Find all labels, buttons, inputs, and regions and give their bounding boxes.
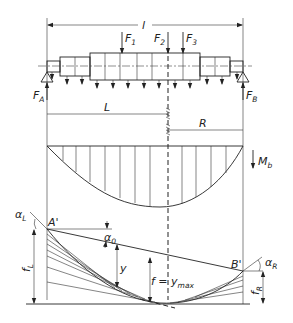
- support-b: FB: [237, 72, 257, 104]
- point-b-prime: B': [231, 258, 242, 271]
- force-f3: F3: [183, 32, 197, 53]
- segment-l: L: [47, 101, 170, 119]
- svg-text:F3: F3: [186, 32, 197, 47]
- force-f2: F2: [154, 32, 168, 53]
- svg-text:R: R: [199, 117, 207, 130]
- svg-text:F2: F2: [154, 32, 165, 47]
- svg-text:L: L: [104, 101, 110, 114]
- beam-deflection-diagram: l F1 F2: [0, 0, 293, 323]
- label-l: l: [142, 19, 145, 32]
- support-a: FA: [33, 72, 53, 104]
- alpha-r-label: αR: [265, 256, 277, 271]
- svg-text:Mb: Mb: [258, 155, 273, 170]
- stepped-shaft: [38, 53, 252, 80]
- f-ymax-label: f = ymax: [151, 275, 194, 290]
- bending-moment-diagram: Mb: [47, 146, 273, 207]
- svg-text:F1: F1: [125, 32, 136, 47]
- f-l-label: fL: [20, 264, 35, 272]
- alpha-0-label: α0: [104, 231, 116, 246]
- point-a-prime: A': [47, 216, 59, 229]
- svg-text:FB: FB: [246, 89, 257, 104]
- svg-text:FA: FA: [33, 89, 44, 104]
- alpha-l-label: αL: [15, 208, 26, 223]
- deflection-diagram: A' B' αL α0 αR y f = ymax fL fR: [15, 208, 277, 308]
- y-label: y: [119, 262, 127, 275]
- f-r-label: fR: [249, 286, 264, 295]
- segment-r: R: [166, 117, 243, 135]
- force-f1: F1: [122, 32, 136, 53]
